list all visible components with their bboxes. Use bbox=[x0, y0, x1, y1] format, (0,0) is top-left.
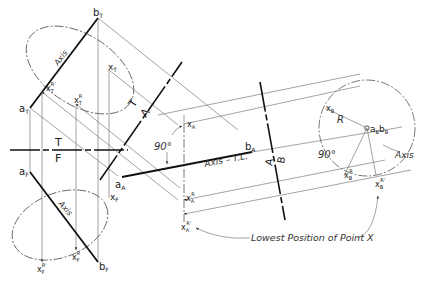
radius-line bbox=[344, 128, 367, 176]
diagram-canvas: bT aT xT xTR xTR' Axis T F aF bF xF xFR … bbox=[0, 0, 428, 281]
label-xF: xF bbox=[110, 192, 119, 203]
axis-line-top bbox=[30, 18, 98, 108]
leader-arrow-left bbox=[196, 228, 250, 238]
axis-tl-label: Axis – T.L. bbox=[202, 151, 248, 169]
fold-label-T: T bbox=[54, 136, 62, 149]
label-xB-R: xBR bbox=[344, 168, 353, 181]
axis-line-front bbox=[30, 172, 98, 262]
top-view: bT aT xT xTR xTR' Axis bbox=[11, 7, 238, 262]
radius-line bbox=[367, 128, 376, 175]
label-aF: aF bbox=[19, 166, 29, 178]
label-xA-Rprime: xAR' bbox=[181, 220, 191, 233]
rotation-path-top bbox=[11, 8, 150, 132]
label-aT: aT bbox=[19, 103, 29, 115]
label-bT: bT bbox=[93, 7, 103, 19]
label-xA-R: xAR bbox=[186, 191, 195, 204]
label-xB-Rprime: xBR' bbox=[375, 177, 385, 190]
fold-label-F: F bbox=[55, 152, 61, 165]
rotation-path-front bbox=[2, 177, 119, 274]
front-view: aF bF xF xFR xFR' Axis bbox=[2, 166, 120, 275]
axis-label-front: Axis bbox=[56, 199, 74, 218]
aux-view-b: R 90° Axis aBbB xB xBR xBR' bbox=[318, 80, 415, 190]
label-aA: aA bbox=[115, 179, 126, 191]
fold-line-tf: T F bbox=[10, 136, 128, 165]
label-bF: bF bbox=[99, 261, 109, 273]
angle-label-b: 90° bbox=[318, 149, 336, 160]
label-xT-Rprime: xTR' bbox=[46, 81, 56, 94]
projector bbox=[184, 170, 411, 214]
fold-label-B: B bbox=[275, 156, 287, 165]
annotation-lowest-position: Lowest Position of Point X bbox=[196, 196, 378, 243]
label-xB: xB bbox=[326, 104, 335, 114]
label-xF-R: xFR bbox=[72, 250, 81, 263]
label-aBbB: aBbB bbox=[370, 124, 389, 135]
fold-line-ta: T A bbox=[100, 62, 182, 180]
label-xT: xT bbox=[108, 62, 117, 73]
drawing: bT aT xT xTR xTR' Axis T F aF bF xF xFR … bbox=[0, 0, 428, 281]
axis-label-b: Axis bbox=[394, 150, 414, 160]
label-xT-R: xTR bbox=[74, 93, 83, 106]
annotation-text: Lowest Position of Point X bbox=[251, 232, 374, 243]
label-bA: bA bbox=[245, 141, 256, 153]
radius-label: R bbox=[337, 114, 344, 125]
label-xF-Rprime: xFR' bbox=[37, 262, 46, 275]
angle-label-a: 90° bbox=[154, 141, 172, 152]
fold-label-T2: T bbox=[125, 97, 140, 111]
